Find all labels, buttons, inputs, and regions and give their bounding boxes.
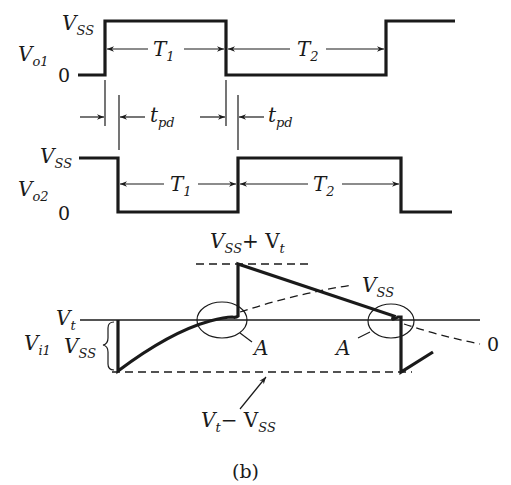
vi1-min-arrow [240, 377, 266, 409]
vo2-waveform-group: VSS Vo2 0 T1 T2 [18, 144, 452, 224]
vi1-asymptote-label: VSS [362, 273, 394, 300]
vi1-min-label: Vt− VSS [201, 408, 276, 435]
vi1-decay-curve [240, 285, 352, 312]
propagation-delay-group: tpd tpd [80, 80, 293, 150]
vi1-waveform-group: VSS+ Vt VSS Vt Vi1 VSS 0 A A Vt− VSS [24, 229, 499, 435]
figure-caption: (b) [232, 460, 259, 482]
vo1-signal-label: Vo1 [18, 42, 49, 69]
point-a-left-label: A [252, 336, 268, 360]
vi1-threshold-label: Vt [56, 306, 76, 333]
vi1-swing-brace [103, 322, 114, 370]
point-a-right-label: A [334, 336, 350, 360]
vi1-peak-label: VSS+ Vt [210, 229, 286, 256]
vo1-trace [78, 21, 455, 75]
tpd1-label: tpd [150, 103, 175, 130]
timing-diagram: VSS Vo1 0 T1 T2 tpd tpd VSS Vo2 0 T1 T [0, 0, 511, 485]
vo1-waveform-group: VSS Vo1 0 T1 T2 [18, 11, 455, 86]
vi1-zero-curve [404, 324, 480, 344]
vo2-trace [79, 158, 452, 212]
vo1-low-label: 0 [58, 64, 70, 86]
vo2-high-label: VSS [40, 144, 72, 171]
vo2-signal-label: Vo2 [18, 177, 49, 204]
vi1-zero-label: 0 [487, 333, 499, 355]
vi1-signal-label: Vi1 [24, 331, 51, 358]
vo2-low-label: 0 [58, 202, 70, 224]
vi1-swing-label: VSS [64, 334, 96, 361]
vo1-high-label: VSS [62, 11, 94, 38]
vi1-trace [118, 264, 433, 372]
point-a-right-circle [368, 304, 414, 338]
tpd2-label: tpd [268, 103, 293, 130]
